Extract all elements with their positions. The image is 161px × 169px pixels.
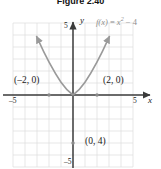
x-tick-neg5: –5 (9, 97, 17, 105)
y-tick-5: 5 (64, 22, 68, 30)
point-vertex (71, 141, 74, 144)
function-name: f(x) (96, 17, 108, 27)
label-left-intercept: (–2, 0) (14, 76, 39, 86)
function-label: f(x) = x2 − 4 (96, 16, 137, 26)
equals-sign: = (110, 17, 115, 27)
point-right-intercept (95, 93, 98, 96)
x-axis-label: x (148, 96, 152, 105)
x-tick-5: 5 (133, 97, 137, 105)
y-axis-label: y (80, 16, 84, 25)
label-vertex: (0, 4) (85, 137, 106, 147)
expression-tail: − 4 (126, 17, 137, 27)
figure-container: Figure 2.40 (0, 0, 161, 169)
point-left-intercept (47, 93, 50, 96)
expression-exponent: 2 (121, 16, 124, 22)
y-tick-neg5: –5 (64, 158, 72, 166)
label-right-intercept: (2, 0) (103, 76, 124, 86)
